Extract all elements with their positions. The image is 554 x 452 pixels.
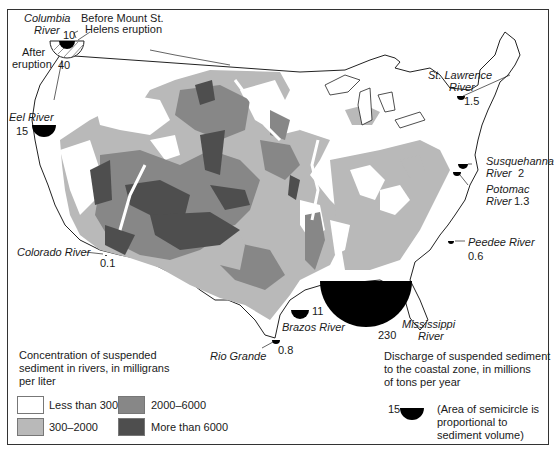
concentration-legend-title-3: per liter	[19, 375, 56, 388]
mississippi-value: 230	[378, 329, 396, 341]
before-eruption-2: Helens eruption	[85, 23, 162, 35]
brazos-value: 11	[312, 305, 323, 317]
after-value: 40	[58, 59, 70, 71]
discharge-legend-title-1: Discharge of suspended sediment	[384, 350, 550, 363]
discharge-note-3: sediment volume)	[437, 429, 524, 442]
peedee-marker	[448, 241, 454, 244]
columbia-value: 10	[63, 29, 75, 41]
swatch-more-than-6000	[118, 418, 145, 436]
discharge-note-1: (Area of semicircle is	[437, 403, 539, 416]
colorado-value: 0.1	[100, 257, 115, 269]
discharge-note-2: proportional to	[437, 416, 507, 429]
st-lawrence-label-1: St. Lawrence	[428, 69, 492, 81]
st-lawrence-value: 1.5	[464, 95, 479, 107]
st-lawrence-label-2: River	[449, 81, 475, 93]
after-eruption-1: After	[22, 46, 45, 58]
potomac-value: 1.3	[514, 195, 529, 207]
rio-grande-value: 0.8	[278, 344, 293, 356]
rio-grande-label: Rio Grande	[210, 350, 266, 362]
susquehanna-label-2: River	[486, 167, 512, 179]
brazos-marker	[291, 310, 309, 319]
potomac-label-2: River	[486, 195, 512, 207]
legend-sample-marker	[400, 408, 424, 420]
legend-label-less-than-300: Less than 300	[49, 399, 118, 412]
legend-label-2000-6000: 2000–6000	[151, 399, 206, 412]
after-eruption-2: eruption	[12, 58, 52, 70]
eel-value: 15	[16, 125, 28, 137]
us-sediment-map	[0, 0, 554, 452]
legend-label-300-2000: 300–2000	[49, 421, 98, 434]
brazos-label: Brazos River	[282, 321, 345, 333]
eel-label: Eel River	[9, 111, 54, 123]
susquehanna-value: 2	[518, 167, 524, 179]
peedee-label: Peedee River	[468, 236, 535, 248]
concentration-legend-title-1: Concentration of suspended	[19, 349, 157, 362]
columbia-label-2: River	[34, 24, 60, 36]
discharge-legend-title-3: of tons per year	[384, 376, 460, 389]
colorado-label: Colorado River	[17, 246, 90, 258]
susquehanna-label-1: Susquehanna	[486, 155, 554, 167]
colorado-marker	[105, 255, 107, 256]
concentration-legend-title-2: sediment in rivers, in milligrans	[19, 362, 169, 375]
mississippi-label-1: Mississippi	[402, 318, 455, 330]
swatch-300-2000	[17, 418, 44, 436]
columbia-label-1: Columbia	[24, 12, 70, 24]
potomac-label-1: Potomac	[486, 183, 529, 195]
legend-label-more-than-6000: More than 6000	[151, 421, 228, 434]
mississippi-label-2: River	[418, 330, 444, 342]
discharge-legend-title-2: to the coastal zone, in millions	[384, 363, 531, 376]
peedee-value: 0.6	[468, 250, 483, 262]
swatch-less-than-300	[17, 396, 44, 414]
legend-sample-value: 15	[388, 403, 400, 416]
swatch-2000-6000	[118, 396, 145, 414]
